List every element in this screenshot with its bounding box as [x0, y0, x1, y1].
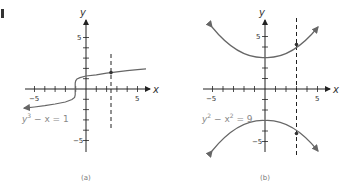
y-tick-neg5: −5: [73, 137, 83, 145]
x-axis-label: x: [332, 84, 339, 95]
x-tick-5: 5: [315, 95, 319, 103]
equation-label: y2 − x2 = 9: [201, 112, 253, 124]
caption-a: (a): [81, 174, 91, 182]
x-tick-neg5: −5: [29, 95, 39, 103]
panel-b: y x 5 −5 −5 5 y2 − x2 = 9 (b): [201, 7, 339, 182]
y-axis-label: y: [258, 7, 266, 18]
intersection-point-upper: [295, 43, 299, 47]
intersection-point: [109, 71, 113, 75]
x-axis-label: x: [152, 84, 159, 95]
equation-label: y3 − x = 1: [21, 112, 69, 124]
x-tick-5: 5: [135, 95, 139, 103]
panel-a: y x 5 −5 −5 5 y3 − x = 1 (a): [21, 7, 159, 182]
intersection-point-lower: [295, 132, 299, 136]
caption-b: (b): [260, 174, 270, 182]
y-tick-neg5: −5: [252, 138, 262, 146]
y-axis-label: y: [79, 7, 87, 18]
x-tick-neg5: −5: [206, 95, 216, 103]
y-tick-5: 5: [77, 34, 81, 42]
y-tick-5: 5: [256, 33, 260, 41]
